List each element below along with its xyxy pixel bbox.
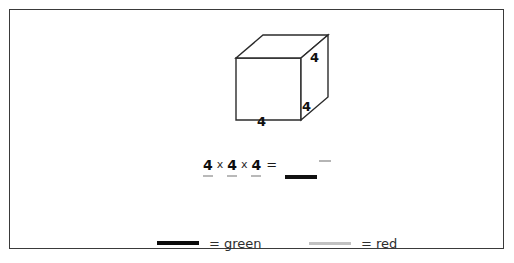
legend-swatch-green-icon [157, 241, 199, 245]
cube-front-face [236, 58, 301, 120]
legend-item-green: = green [157, 232, 262, 254]
legend-swatch-red-icon [309, 242, 351, 245]
equation-factor-3-value: 4 [252, 157, 262, 173]
equation-factor-3: 4 [252, 158, 262, 172]
legend-label-red: = red [361, 236, 397, 251]
equation-equals-sign: = [266, 158, 277, 172]
cube-figure [225, 28, 335, 133]
equation-operator-2: x [241, 158, 248, 172]
cube-dimension-label-bottom: 4 [257, 115, 266, 128]
volume-equation: 4 x 4 x 4 = [203, 158, 341, 184]
equation-operator-1: x [217, 158, 224, 172]
worksheet-frame: 4 4 4 4 x 4 x 4 = [9, 9, 504, 249]
answer-red-mark [319, 160, 331, 162]
equation-factor-2-value: 4 [227, 157, 237, 173]
equation-factor-1: 4 [203, 158, 213, 172]
cube-icon [225, 28, 335, 133]
answer-green-rule [285, 175, 317, 179]
equation-answer-blank[interactable] [283, 158, 341, 184]
equation-factor-3-red-mark [251, 175, 261, 177]
legend: = green = red [157, 232, 407, 254]
legend-item-red: = red [309, 232, 397, 254]
equation-factor-1-value: 4 [203, 157, 213, 173]
equation-factor-2-red-mark [227, 175, 237, 177]
worksheet-page: 4 4 4 4 x 4 x 4 = [0, 0, 514, 263]
legend-label-green: = green [209, 236, 262, 251]
equation-factor-2: 4 [227, 158, 237, 172]
cube-dimension-label-right-bottom: 4 [302, 100, 311, 113]
cube-dimension-label-right-top: 4 [310, 51, 319, 64]
equation-factor-1-red-mark [203, 175, 213, 177]
